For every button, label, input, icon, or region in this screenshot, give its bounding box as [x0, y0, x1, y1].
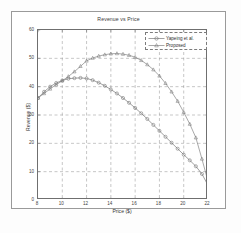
plot-area	[37, 29, 207, 199]
legend-label: Proposed	[166, 42, 186, 49]
legend-label: Yapeing et al.	[166, 35, 194, 42]
x-tick-label: 16	[132, 201, 137, 206]
y-tick-label: 0	[25, 197, 34, 202]
x-tick-label: 12	[83, 201, 88, 206]
data-series-layer	[38, 52, 207, 187]
legend-entry: Yapeing et al.	[148, 35, 204, 42]
chart-legend: Yapeing et al.Proposed	[145, 32, 207, 50]
legend-marker-circle-icon	[148, 35, 165, 42]
x-axis-label: Price ($)	[37, 208, 207, 214]
series-proposed	[38, 52, 207, 183]
figure-frame: Revenue vs Price 810121416182022 0102030…	[11, 11, 226, 209]
x-tick-label: 18	[156, 201, 161, 206]
x-tick-label: 20	[180, 201, 185, 206]
y-tick-label: 60	[25, 27, 34, 32]
legend-marker-triangle-icon	[148, 42, 165, 49]
legend-entry: Proposed	[148, 42, 204, 49]
y-axis-label: Revenue ($)	[25, 87, 31, 147]
series-yapeing-et-al	[38, 76, 207, 186]
plot-canvas	[38, 30, 207, 199]
x-tick-label: 10	[59, 201, 64, 206]
x-tick-label: 22	[204, 201, 209, 206]
page-canvas: Revenue vs Price 810121416182022 0102030…	[0, 0, 241, 233]
x-tick-label: 8	[36, 201, 39, 206]
y-tick-label: 50	[25, 55, 34, 60]
chart-title: Revenue vs Price	[12, 16, 225, 22]
y-tick-label: 10	[25, 168, 34, 173]
x-tick-label: 14	[107, 201, 112, 206]
chart-figure: Revenue vs Price 810121416182022 0102030…	[12, 12, 225, 208]
